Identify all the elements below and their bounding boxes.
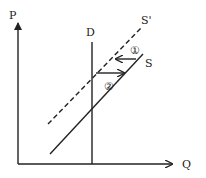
y-axis-label: P [9, 9, 17, 22]
supply-label-s-prime: S' [141, 14, 152, 27]
shift-arrow-2-label: ② [104, 80, 114, 93]
x-axis-label: Q [182, 158, 191, 171]
supply-label-s: S [145, 57, 153, 70]
demand-label: D [86, 26, 95, 39]
shift-arrow-1-label: ① [130, 44, 140, 57]
supply-curve-s [50, 54, 143, 154]
supply-curve-s-prime [48, 28, 141, 124]
supply-demand-diagram: P Q D S S' ① ② [0, 0, 206, 178]
